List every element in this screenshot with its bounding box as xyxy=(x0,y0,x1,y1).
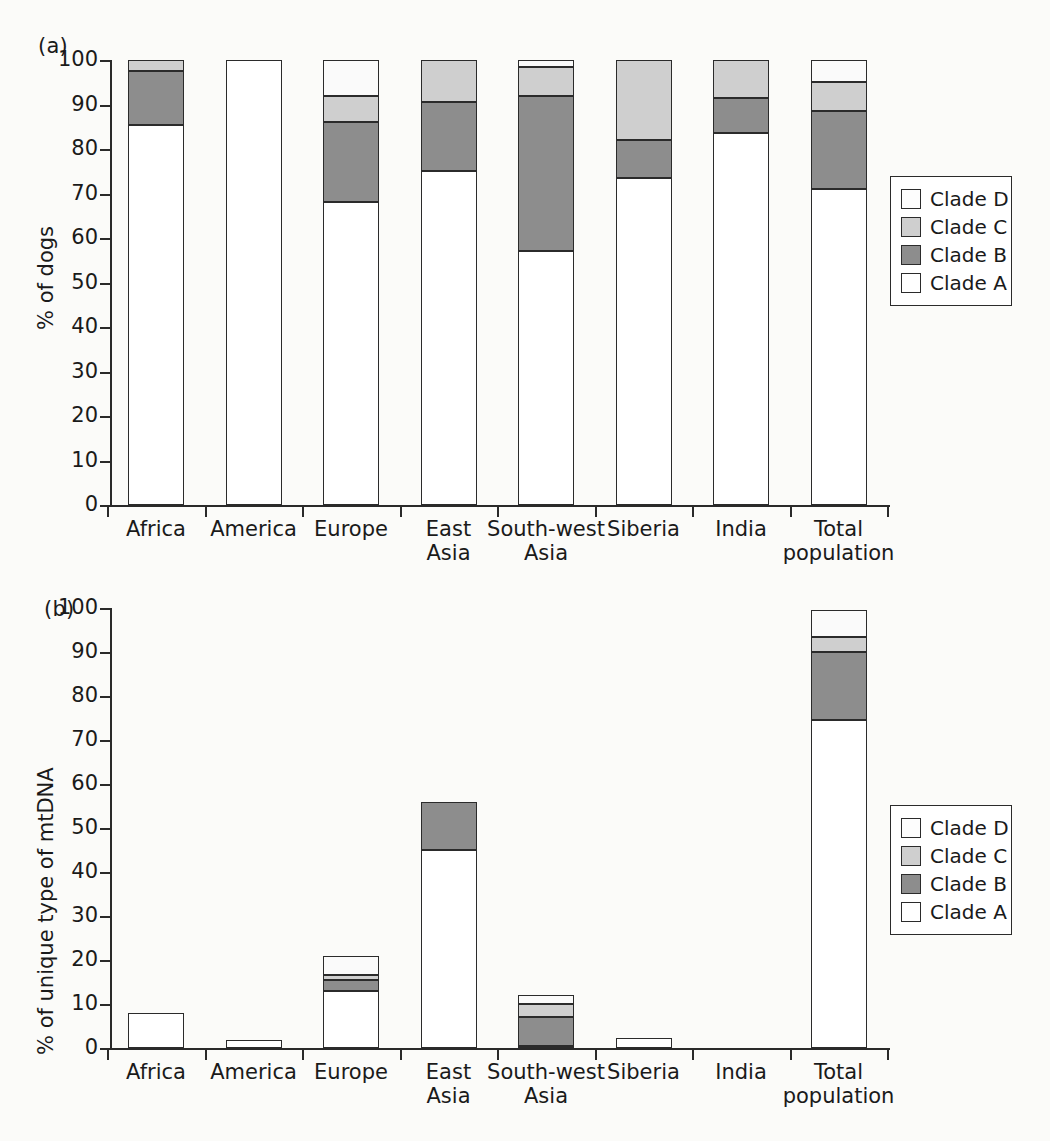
bar-stack[interactable] xyxy=(518,608,574,1048)
bar-segment-clade-c[interactable] xyxy=(811,82,867,111)
bar-segment-clade-b[interactable] xyxy=(518,1017,574,1046)
bar-segment-clade-c[interactable] xyxy=(421,60,477,102)
y-axis-tick-label: 10 xyxy=(30,450,98,471)
bar-stack[interactable] xyxy=(128,608,184,1048)
bar-stack[interactable] xyxy=(811,608,867,1048)
bar-stack[interactable] xyxy=(518,60,574,505)
legend-row[interactable]: Clade B xyxy=(901,241,999,269)
bar-segment-clade-c[interactable] xyxy=(616,60,672,140)
bar-segment-clade-c[interactable] xyxy=(518,67,574,96)
bar-segment-clade-a[interactable] xyxy=(811,720,867,1048)
x-axis-tick xyxy=(790,1048,792,1060)
bar-segment-clade-b[interactable] xyxy=(811,652,867,720)
bar-stack[interactable] xyxy=(323,60,379,505)
bar-segment-clade-b[interactable] xyxy=(421,802,477,850)
legend-label: Clade D xyxy=(930,816,1009,840)
legend-row[interactable]: Clade A xyxy=(901,898,999,926)
bar-segment-clade-b[interactable] xyxy=(616,140,672,178)
bar-segment-clade-a[interactable] xyxy=(421,171,477,505)
x-axis-tick xyxy=(692,1048,694,1060)
bar-segment-clade-c[interactable] xyxy=(128,60,184,71)
y-axis-tick-label: 40 xyxy=(30,316,98,337)
bar-segment-clade-d[interactable] xyxy=(323,956,379,976)
y-axis-tick xyxy=(100,238,111,240)
panel-b: (b) % of unique type of mtDNA 0102030405… xyxy=(0,575,1050,1141)
bar-segment-clade-a[interactable] xyxy=(616,1038,672,1048)
panel-a: (a) % of dogs 0102030405060708090100Afri… xyxy=(0,0,1050,590)
x-axis-tick xyxy=(692,505,694,517)
bar-stack[interactable] xyxy=(811,60,867,505)
bar-segment-clade-a[interactable] xyxy=(811,189,867,505)
bar-segment-clade-d[interactable] xyxy=(811,60,867,82)
y-axis-tick xyxy=(100,652,111,654)
bar-stack[interactable] xyxy=(713,60,769,505)
bar-segment-clade-b[interactable] xyxy=(811,111,867,189)
legend-label: Clade D xyxy=(930,187,1009,211)
bar-segment-clade-d[interactable] xyxy=(518,995,574,1004)
y-axis-tick xyxy=(100,327,111,329)
bar-segment-clade-a[interactable] xyxy=(128,1013,184,1048)
bar-stack[interactable] xyxy=(226,60,282,505)
x-axis-tick xyxy=(205,1048,207,1060)
legend-row[interactable]: Clade A xyxy=(901,269,999,297)
y-axis-tick xyxy=(100,149,111,151)
y-axis-tick-label: 20 xyxy=(30,405,98,426)
y-axis-tick-label: 60 xyxy=(30,773,98,794)
bar-segment-clade-a[interactable] xyxy=(128,125,184,505)
bar-segment-clade-b[interactable] xyxy=(128,71,184,124)
y-axis-tick xyxy=(100,60,111,62)
y-axis-tick xyxy=(100,872,111,874)
bar-segment-clade-b[interactable] xyxy=(713,98,769,134)
legend-row[interactable]: Clade C xyxy=(901,842,999,870)
bar-segment-clade-a[interactable] xyxy=(323,202,379,505)
bar-segment-clade-a[interactable] xyxy=(323,991,379,1048)
y-axis-tick xyxy=(100,916,111,918)
bar-segment-clade-a[interactable] xyxy=(713,133,769,505)
legend-label: Clade C xyxy=(930,844,1007,868)
bar-segment-clade-c[interactable] xyxy=(323,96,379,123)
legend-row[interactable]: Clade D xyxy=(901,185,999,213)
y-axis-tick xyxy=(100,416,111,418)
bar-segment-clade-d[interactable] xyxy=(811,610,867,636)
bar-segment-clade-a[interactable] xyxy=(226,1040,282,1048)
bar-segment-clade-b[interactable] xyxy=(323,980,379,991)
legend-label: Clade B xyxy=(930,872,1007,896)
legend-row[interactable]: Clade C xyxy=(901,213,999,241)
bar-segment-clade-c[interactable] xyxy=(323,975,379,979)
bar-stack[interactable] xyxy=(226,608,282,1048)
bar-segment-clade-b[interactable] xyxy=(323,122,379,202)
bar-stack[interactable] xyxy=(616,608,672,1048)
y-axis-tick-label: 50 xyxy=(30,817,98,838)
y-axis-tick xyxy=(100,740,111,742)
bar-stack[interactable] xyxy=(128,60,184,505)
bar-segment-clade-a[interactable] xyxy=(421,850,477,1048)
bar-stack[interactable] xyxy=(421,60,477,505)
bar-segment-clade-d[interactable] xyxy=(323,60,379,96)
bar-stack[interactable] xyxy=(616,60,672,505)
bar-segment-clade-a[interactable] xyxy=(616,178,672,505)
x-axis-tick xyxy=(400,1048,402,1060)
y-axis-tick-label: 70 xyxy=(30,183,98,204)
y-axis-tick-label: 80 xyxy=(30,685,98,706)
legend-label: Clade A xyxy=(930,271,1007,295)
legend-label: Clade B xyxy=(930,243,1007,267)
bar-stack[interactable] xyxy=(713,608,769,1048)
bar-segment-clade-c[interactable] xyxy=(713,60,769,98)
legend-label: Clade C xyxy=(930,215,1007,239)
legend-row[interactable]: Clade B xyxy=(901,870,999,898)
x-axis-tick xyxy=(107,1048,109,1060)
bar-segment-clade-c[interactable] xyxy=(518,1004,574,1017)
x-axis-tick xyxy=(595,1048,597,1060)
legend-row[interactable]: Clade D xyxy=(901,814,999,842)
bar-segment-clade-b[interactable] xyxy=(421,102,477,171)
bar-stack[interactable] xyxy=(421,608,477,1048)
legend-swatch-clade-a-icon xyxy=(901,902,921,922)
bar-stack[interactable] xyxy=(323,608,379,1048)
bar-segment-clade-d[interactable] xyxy=(518,60,574,67)
bar-segment-clade-a[interactable] xyxy=(518,1046,574,1048)
bar-segment-clade-a[interactable] xyxy=(226,60,282,505)
bar-segment-clade-b[interactable] xyxy=(518,96,574,252)
bar-segment-clade-c[interactable] xyxy=(811,637,867,652)
x-axis-line xyxy=(110,1048,890,1050)
bar-segment-clade-a[interactable] xyxy=(518,251,574,505)
